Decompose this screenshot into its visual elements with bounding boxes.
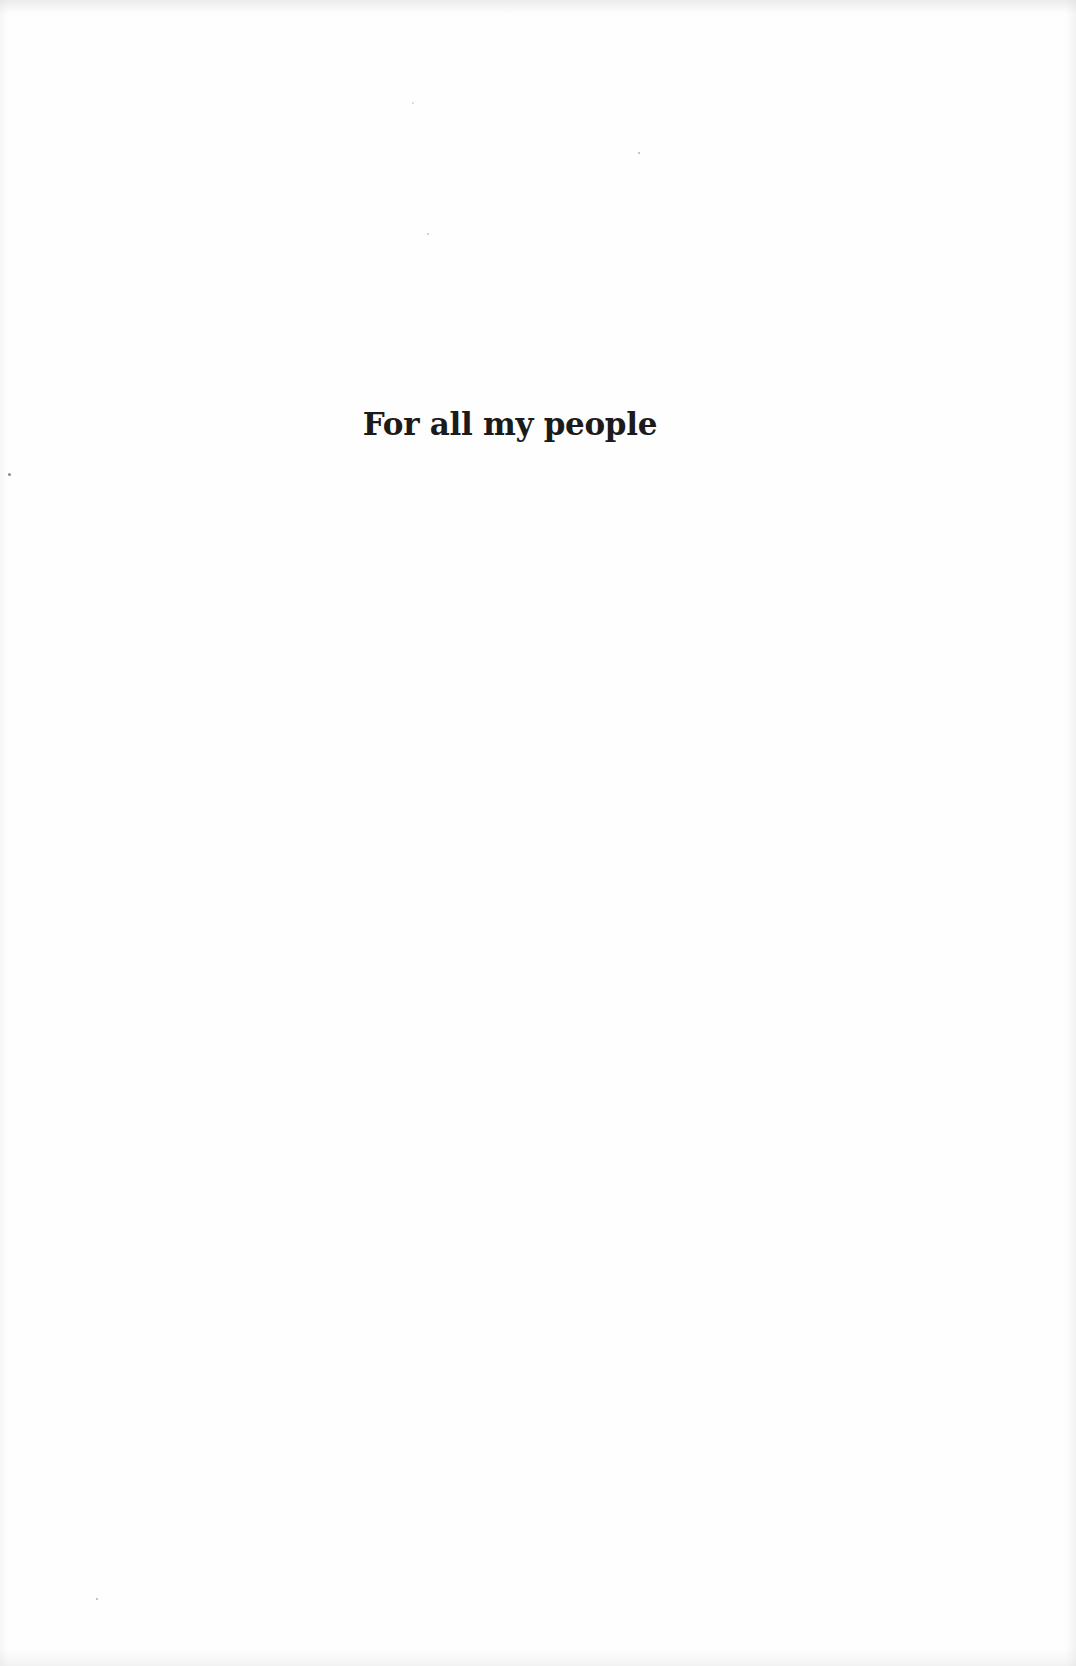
scan-speck — [96, 1598, 98, 1600]
scan-speck — [8, 473, 11, 476]
scan-edge-bottom — [0, 1648, 1076, 1666]
scan-edge-top — [0, 0, 1076, 14]
scan-speck — [427, 233, 429, 235]
scan-speck — [412, 102, 414, 104]
scan-edge-right — [1066, 0, 1076, 1666]
scan-edge-left — [0, 0, 8, 1666]
dedication-text: For all my people — [0, 404, 1076, 444]
dedication-line: For all my people — [363, 404, 657, 444]
book-page: For all my people — [0, 0, 1076, 1666]
scan-speck — [638, 152, 640, 154]
